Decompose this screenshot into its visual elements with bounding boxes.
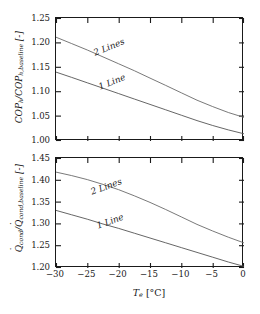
ticks-bottom-xbottom bbox=[57, 263, 244, 268]
plot-area-bottom bbox=[55, 157, 243, 267]
xtick-5: −5 bbox=[198, 270, 226, 279]
series-bottom-2lines bbox=[56, 172, 244, 243]
xtick-6: 0 bbox=[229, 270, 257, 279]
series-top-1line bbox=[56, 72, 244, 134]
xtick-3: −15 bbox=[135, 270, 163, 279]
xtick-0: −30 bbox=[41, 270, 69, 279]
subplot-top: COPh/COPh,baseline [-] 1.25 1.20 1.15 1.… bbox=[0, 0, 260, 150]
x-axis-label-text: Te [°C] bbox=[133, 287, 166, 298]
plot-area-top bbox=[55, 17, 243, 140]
ticks-top-bottom bbox=[57, 136, 244, 141]
ytick-bottom-1: 1.40 bbox=[22, 176, 50, 185]
xtick-4: −10 bbox=[166, 270, 194, 279]
plot-svg-top bbox=[56, 18, 244, 141]
series-bottom-1line bbox=[56, 210, 244, 266]
ytick-bottom-0: 1.45 bbox=[22, 154, 50, 163]
xtick-1: −25 bbox=[72, 270, 100, 279]
ytick-top-4: 1.05 bbox=[22, 112, 50, 121]
ticks-top-right bbox=[239, 19, 244, 141]
ticks-top-upper bbox=[57, 18, 244, 23]
ticks-bottom-right bbox=[239, 159, 244, 268]
ytick-bottom-2: 1.35 bbox=[22, 198, 50, 207]
ytick-top-3: 1.10 bbox=[22, 87, 50, 96]
y-axis-label-top: COPh/COPh,baseline [-] bbox=[14, 12, 24, 142]
ticks-bottom-left bbox=[56, 159, 61, 268]
ticks-bottom-xtop bbox=[57, 158, 244, 163]
ytick-top-0: 1.25 bbox=[22, 14, 50, 23]
series-top-2lines bbox=[56, 37, 244, 117]
ytick-top-2: 1.15 bbox=[22, 63, 50, 72]
figure-container: COPh/COPh,baseline [-] 1.25 1.20 1.15 1.… bbox=[0, 0, 260, 314]
ticks-top-left bbox=[56, 19, 61, 141]
plot-svg-bottom bbox=[56, 158, 244, 268]
xtick-2: −20 bbox=[104, 270, 132, 279]
ytick-bottom-3: 1.30 bbox=[22, 219, 50, 228]
subplot-bottom: Qcond/Qcond,baseline [-] 1.45 1.40 1.35 … bbox=[0, 150, 260, 314]
ytick-bottom-4: 1.25 bbox=[22, 241, 50, 250]
x-axis-label: Te [°C] bbox=[55, 287, 243, 299]
ytick-top-5: 1.00 bbox=[22, 136, 50, 145]
ytick-top-1: 1.20 bbox=[22, 38, 50, 47]
